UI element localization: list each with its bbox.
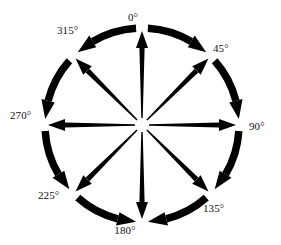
arc-135-180-arrowhead (148, 212, 168, 225)
arc-0-45-stroke (148, 28, 191, 41)
spoke-135-shaft (146, 129, 198, 181)
arc-225-180 (78, 198, 136, 226)
spoke-270-arrowhead (48, 119, 65, 131)
arc-315-270-stroke (48, 61, 69, 101)
spoke-180-arrow (136, 132, 148, 219)
spoke-180-shaft (139, 132, 144, 202)
arc-90-135 (215, 131, 239, 189)
angle-label-45: 45° (213, 43, 229, 54)
arc-90-135-stroke (226, 131, 239, 174)
spoke-90-shaft (149, 122, 219, 127)
arc-0-315-stroke (93, 28, 136, 41)
angle-label-90: 90° (249, 121, 265, 132)
spoke-45-arrow (146, 59, 208, 121)
spoke-180-arrowhead (136, 202, 148, 219)
spoke-315-arrow (76, 59, 138, 121)
compass-rose-diagram (0, 0, 281, 245)
angle-label-315: 315° (57, 25, 78, 36)
arc-315-270 (41, 61, 69, 119)
spoke-225-shaft (86, 129, 138, 181)
spoke-270-shaft (65, 122, 135, 127)
spoke-0-arrowhead (136, 31, 148, 48)
spoke-45-shaft (146, 69, 198, 121)
figure-canvas: 0°45°90°135°180°225°270°315° (0, 0, 281, 245)
angle-label-270: 270° (10, 110, 31, 121)
angle-label-135: 135° (203, 203, 224, 214)
spoke-135-arrow (146, 129, 208, 191)
arc-135-180 (148, 198, 206, 226)
spoke-315-shaft (86, 69, 138, 121)
arc-315-270-arrowhead (41, 99, 54, 119)
arc-45-90-arrowhead (229, 99, 242, 119)
spoke-0-shaft (139, 48, 144, 118)
arc-45-90 (215, 61, 243, 119)
arc-0-315 (78, 28, 136, 52)
spoke-90-arrow (149, 119, 236, 131)
arc-270-225-stroke (45, 131, 58, 174)
arc-45-90-stroke (215, 61, 236, 101)
spoke-225-arrow (76, 129, 138, 191)
arc-270-225 (45, 131, 69, 189)
arc-0-45 (148, 28, 206, 52)
spoke-0-arrow (136, 31, 148, 118)
arc-135-180-stroke (166, 198, 206, 219)
center-hub (138, 121, 146, 129)
spoke-90-arrowhead (219, 119, 236, 131)
spoke-270-arrow (48, 119, 135, 131)
angle-label-225: 225° (38, 190, 59, 201)
arc-225-180-stroke (78, 198, 118, 219)
angle-label-0: 0° (128, 12, 138, 23)
angle-label-180: 180° (114, 225, 135, 236)
